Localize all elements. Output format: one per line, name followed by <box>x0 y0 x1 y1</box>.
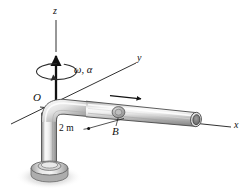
slide-velocity-arrow <box>110 96 141 99</box>
point-label-B: B <box>112 126 119 137</box>
collar-at-B <box>112 107 125 118</box>
dimension-label-2m: 2 m <box>59 124 74 134</box>
angular-velocity-label: ω, α <box>74 65 92 76</box>
pipe-horizontal-run <box>86 101 196 126</box>
axis-label-z: z <box>53 6 57 16</box>
axis-label-y: y <box>137 53 141 63</box>
figure-canvas: z y x O B ω, α 2 m <box>0 0 247 196</box>
pipe-base-flange <box>31 161 68 182</box>
point-label-O: O <box>33 92 41 103</box>
pipe-elbow <box>42 99 89 122</box>
axis-label-x: x <box>234 120 238 130</box>
